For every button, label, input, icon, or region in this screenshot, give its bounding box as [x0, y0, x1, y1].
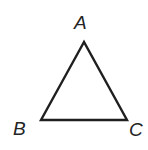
vertex-label-c: C: [129, 120, 143, 139]
figure-canvas: A B C: [0, 0, 148, 150]
triangle-outline: [41, 42, 127, 120]
vertex-label-b: B: [13, 119, 26, 138]
vertex-label-a: A: [74, 13, 87, 32]
